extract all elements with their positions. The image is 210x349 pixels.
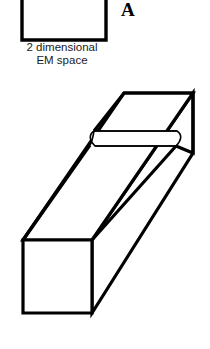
prism-front-face [23,240,92,313]
panel-label-a: A [121,0,135,19]
square-outline [22,0,106,40]
panel-two-dimensional: A 2 dimensional EM space [0,0,210,85]
panel-three-dimensional: B 3 dimensional EM space [0,85,210,349]
caption-line-2: EM space [0,54,124,67]
figure-root: A 2 dimensional EM space [0,0,210,349]
caption-line-1: 2 dimensional [0,41,124,54]
three-dimensional-prism-diagram [0,85,210,349]
band-body [90,131,180,146]
caption-two-dimensional: 2 dimensional EM space [0,41,124,66]
